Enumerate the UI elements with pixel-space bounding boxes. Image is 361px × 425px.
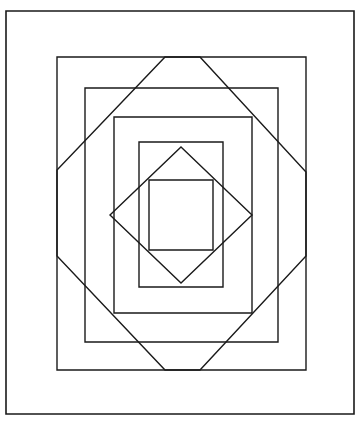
canvas-background [0, 0, 361, 425]
geometric-figure-canvas [0, 0, 361, 425]
